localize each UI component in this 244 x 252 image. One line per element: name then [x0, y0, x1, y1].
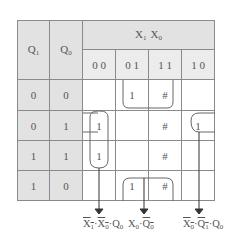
term-0: X1·X0·Q0 [83, 218, 123, 231]
grouping-overlay [0, 0, 244, 252]
arrow-head-3 [195, 209, 203, 214]
group-notx1-notx0-q0 [90, 111, 108, 168]
group-wrap-right [191, 113, 215, 132]
group-x0-notq0-bottom [123, 178, 173, 201]
term-1: X0·Q0 [128, 218, 154, 231]
term-2: X0·Q1·Q0 [183, 218, 223, 231]
arrow-head-1 [95, 209, 103, 214]
group-x0-notq0 [123, 80, 173, 108]
arrow-head-2 [140, 209, 148, 214]
